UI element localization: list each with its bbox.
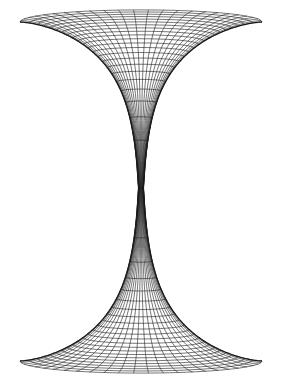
upper-half-mesh [20, 10, 262, 188]
lower-half-mesh [20, 188, 262, 373]
pseudosphere-wireframe [0, 0, 284, 377]
